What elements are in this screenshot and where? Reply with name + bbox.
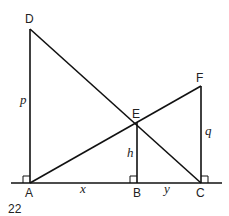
label-x: x [79,181,86,196]
segment-af [30,86,201,183]
geometry-figure: D E F A B C p q h x y 22 [0,0,229,216]
label-h: h [127,145,134,160]
label-f: F [196,71,203,85]
segment-dc [30,29,201,183]
label-c: C [196,186,205,200]
label-e: E [132,107,140,121]
right-angle-b [130,176,137,183]
figure-number: 22 [8,202,22,216]
label-d: D [25,12,34,26]
label-y: y [162,181,170,196]
label-a: A [25,186,33,200]
label-p: p [19,92,27,107]
right-angle-c [201,176,208,183]
label-b: B [133,186,141,200]
label-q: q [205,123,212,138]
right-angle-a [23,176,30,183]
